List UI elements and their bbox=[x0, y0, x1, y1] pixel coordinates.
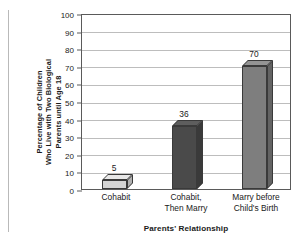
y-axis-title-line-1: Percentage of Children bbox=[35, 70, 45, 153]
x-axis-category-label: Marry beforeChild's Birth bbox=[221, 192, 291, 213]
x-axis-category-label-line: Child's Birth bbox=[221, 203, 291, 214]
y-axis-tick-mark bbox=[77, 103, 82, 104]
y-axis-tick: 60 bbox=[57, 81, 82, 90]
y-axis-tick-mark bbox=[77, 173, 82, 174]
y-axis-tick-label: 60 bbox=[57, 81, 74, 90]
y-axis-tick-label: 70 bbox=[57, 63, 74, 72]
bar-front-face bbox=[242, 66, 267, 189]
y-axis-tick-mark bbox=[77, 50, 82, 51]
figure-border-line bbox=[8, 10, 9, 232]
bar-chart-figure: Percentage of Children Who Live with Two… bbox=[0, 0, 307, 243]
y-axis-tick-mark bbox=[77, 85, 82, 86]
y-axis-tick-mark bbox=[77, 138, 82, 139]
y-axis-tick: 10 bbox=[57, 169, 82, 178]
y-axis-tick: 50 bbox=[57, 99, 82, 108]
y-axis-tick-label: 100 bbox=[57, 11, 74, 20]
y-axis-tick-label: 10 bbox=[57, 169, 74, 178]
y-axis-tick-mark bbox=[77, 15, 82, 16]
y-axis-tick-label: 30 bbox=[57, 134, 74, 143]
y-axis-tick-label: 20 bbox=[57, 151, 74, 160]
bar: 70 bbox=[242, 66, 267, 189]
x-axis-category-label-line: Then Marry bbox=[151, 203, 221, 214]
y-axis-tick: 90 bbox=[57, 28, 82, 37]
bar-value-label: 70 bbox=[242, 49, 267, 59]
x-axis-title: Parents' Relationship bbox=[81, 224, 291, 233]
y-axis-tick: 30 bbox=[57, 134, 82, 143]
bar-front-face bbox=[172, 126, 197, 189]
bar-value-label: 5 bbox=[102, 163, 127, 173]
y-axis-tick-label: 80 bbox=[57, 46, 74, 55]
y-axis-tick: 40 bbox=[57, 116, 82, 125]
y-axis-tick-mark bbox=[77, 120, 82, 121]
x-axis-category-label-line: Marry before bbox=[221, 192, 291, 203]
y-axis-tick: 70 bbox=[57, 63, 82, 72]
x-axis-category-label-line: Cohabit, bbox=[151, 192, 221, 203]
y-axis-tick-label: 50 bbox=[57, 99, 74, 108]
y-axis-tick-mark bbox=[77, 32, 82, 33]
bar-side-face bbox=[267, 60, 273, 189]
y-axis-tick-label: 0 bbox=[57, 187, 74, 196]
bar: 36 bbox=[172, 126, 197, 189]
plot-area: 010203040506070809010053670 bbox=[81, 14, 291, 190]
y-axis-tick: 0 bbox=[57, 187, 82, 196]
y-axis-tick: 100 bbox=[57, 11, 82, 20]
x-axis-category-label: Cohabit bbox=[81, 192, 151, 203]
y-axis-tick-label: 40 bbox=[57, 116, 74, 125]
bar-side-face bbox=[197, 120, 203, 189]
y-axis-tick-mark bbox=[77, 155, 82, 156]
x-axis-category-label: Cohabit,Then Marry bbox=[151, 192, 221, 213]
y-axis-tick: 20 bbox=[57, 151, 82, 160]
y-axis-tick-label: 90 bbox=[57, 28, 74, 37]
y-axis-tick: 80 bbox=[57, 46, 82, 55]
y-axis-tick-mark bbox=[77, 67, 82, 68]
bar-value-label: 36 bbox=[172, 109, 197, 119]
gridline bbox=[82, 32, 290, 33]
bar: 5 bbox=[102, 180, 127, 189]
bar-front-face bbox=[102, 180, 127, 189]
y-axis-title-line-2: Who Live with Two Biological bbox=[44, 59, 54, 165]
x-axis-category-label-line: Cohabit bbox=[81, 192, 151, 203]
x-axis-category-labels: CohabitCohabit,Then MarryMarry beforeChi… bbox=[81, 192, 291, 220]
